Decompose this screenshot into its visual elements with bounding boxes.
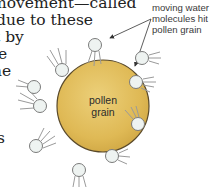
molecules-callout: moving water molecules hit pollen grain [152, 2, 209, 35]
pollen-label-line1: pollen [73, 94, 133, 106]
pollen-label-line2: grain [73, 106, 133, 118]
water-molecule-2 [89, 39, 102, 52]
water-molecule-8 [30, 140, 43, 153]
pollen-grain-diagram: movement—called due to these t by e ne s [0, 0, 220, 187]
callout-line2: molecules hit [152, 13, 209, 24]
water-molecule-4 [132, 118, 145, 131]
callout-line3: pollen grain [152, 24, 209, 35]
water-molecule-9 [73, 164, 86, 177]
water-molecule-1 [56, 64, 69, 77]
callout-line1: moving water [152, 2, 209, 13]
water-molecule-5 [106, 150, 119, 163]
water-molecule-10 [136, 52, 149, 65]
water-molecule-3 [130, 76, 143, 89]
pollen-grain-label: pollen grain [73, 94, 133, 118]
water-molecule-6 [34, 100, 47, 113]
water-molecule-7 [28, 81, 41, 94]
